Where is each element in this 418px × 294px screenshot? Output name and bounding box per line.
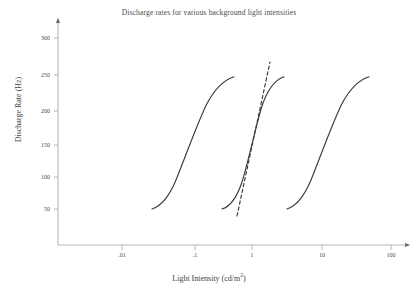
x-tick-label-0.1: .1: [180, 252, 210, 258]
x-axis-ticks: [122, 245, 391, 250]
x-tick-label-1: 1: [237, 252, 267, 258]
x-axis-title: Light Intensity (cd/m2): [0, 272, 418, 283]
axis-lines: [58, 20, 408, 245]
x-tick-label-10: 10: [307, 252, 337, 258]
x-tick-label-0.01: .01: [107, 252, 137, 258]
y-tick-label-150: 150: [24, 142, 50, 148]
y-tick-label-50: 50: [24, 206, 50, 212]
data-series-group: [152, 62, 369, 216]
chart-canvas: [0, 0, 418, 294]
series-curve-high-background: [287, 77, 369, 209]
y-tick-label-250: 250: [24, 72, 50, 78]
chart-figure: Discharge rates for various background l…: [0, 0, 418, 294]
y-tick-label-100: 100: [24, 174, 50, 180]
y-tick-label-200: 200: [24, 108, 50, 114]
x-axis-title-tail: ): [243, 274, 246, 283]
series-curve-low-background: [152, 77, 234, 209]
y-axis-ticks: [54, 38, 58, 209]
y-axis-title: Discharge Rate (Hz): [14, 40, 23, 180]
y-tick-label-300: 300: [24, 35, 50, 41]
x-tick-label-100: 100: [376, 252, 406, 258]
series-tangent-line: [237, 62, 270, 216]
x-axis-title-text: Light Intensity (cd/m: [172, 274, 240, 283]
